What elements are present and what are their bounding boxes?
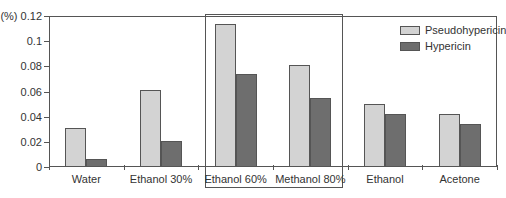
bar-hypericin	[385, 114, 406, 167]
legend-swatch	[400, 26, 420, 35]
bar-pseudohypericin	[289, 65, 310, 167]
bar-hypericin	[86, 159, 107, 167]
y-tick-label: 0.08	[21, 60, 42, 72]
x-tick	[124, 165, 125, 170]
bar-pseudohypericin	[65, 128, 86, 167]
x-tick	[422, 165, 423, 170]
y-tick-label: 0.04	[21, 111, 42, 123]
y-tick-label: 0	[36, 161, 42, 173]
y-tick	[44, 16, 49, 17]
y-tick	[44, 142, 49, 143]
x-tick	[348, 165, 349, 170]
bar-hypericin	[460, 124, 481, 167]
y-tick	[44, 117, 49, 118]
legend-item-hypericin: Hypericin	[400, 39, 506, 53]
x-tick	[273, 165, 274, 170]
y-tick-label: 0.1	[27, 35, 42, 47]
x-tick-label: Acetone	[422, 173, 497, 185]
bar-pseudohypericin	[439, 114, 460, 167]
x-tick-label: Ethanol 30%	[124, 173, 199, 185]
bar-hypericin	[236, 74, 257, 167]
x-tick	[497, 165, 498, 170]
x-tick	[49, 165, 50, 170]
y-tick	[44, 66, 49, 67]
bar-pseudohypericin	[215, 24, 236, 167]
legend-label: Pseudohypericin	[425, 24, 506, 36]
x-tick	[198, 165, 199, 170]
bar-hypericin	[310, 98, 331, 167]
legend-swatch	[400, 42, 420, 51]
legend: Pseudohypericin Hypericin	[400, 23, 506, 55]
legend-item-pseudohypericin: Pseudohypericin	[400, 23, 506, 37]
x-tick-label: Methanol 80%	[273, 173, 348, 185]
legend-label: Hypericin	[425, 40, 471, 52]
y-tick-label: (%) 0.12	[0, 10, 42, 22]
bar-hypericin	[161, 141, 182, 167]
bar-pseudohypericin	[140, 90, 161, 167]
x-tick-label: Water	[49, 173, 124, 185]
x-tick-label: Ethanol 60%	[198, 173, 273, 185]
y-tick-label: 0.02	[21, 136, 42, 148]
y-tick-label: 0.06	[21, 86, 42, 98]
y-tick	[44, 92, 49, 93]
bar-chart: Pseudohypericin Hypericin 00.020.040.060…	[0, 0, 506, 198]
bar-pseudohypericin	[364, 104, 385, 167]
y-tick	[44, 41, 49, 42]
x-tick-label: Ethanol	[348, 173, 423, 185]
